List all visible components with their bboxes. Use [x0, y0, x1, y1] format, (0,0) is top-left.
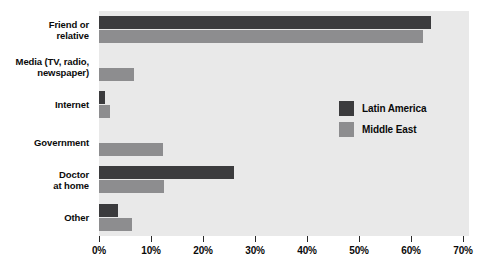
bar-latin-america [99, 91, 105, 104]
x-axis-tick-label: 0% [92, 245, 106, 256]
bar-group [99, 49, 469, 87]
bar-latin-america [99, 166, 234, 179]
bar-group [99, 11, 469, 49]
y-axis-label-line: Media (TV, radio, [0, 56, 89, 67]
x-axis-tick-label: 40% [297, 245, 316, 256]
legend-item: Latin America [339, 101, 459, 116]
x-axis-tick-label: 70% [453, 245, 472, 256]
y-axis-label: Other [0, 212, 89, 223]
bar-middle-east [99, 143, 163, 156]
bar-group [99, 161, 469, 199]
bar-group [99, 199, 469, 237]
x-axis-tick [151, 236, 152, 242]
y-axis-labels: Friend orrelativeMedia (TV, radio,newspa… [0, 11, 95, 236]
bar-latin-america [99, 204, 118, 217]
y-axis-label-line: Other [0, 212, 89, 223]
y-axis-label: Government [0, 137, 89, 148]
x-axis-tick-label: 50% [349, 245, 368, 256]
y-axis-label: Doctorat home [0, 169, 89, 191]
x-axis-tick [411, 236, 412, 242]
y-axis-label: Internet [0, 99, 89, 110]
y-axis-label-line: relative [0, 30, 89, 41]
legend-swatch-icon [339, 101, 354, 116]
x-axis-tick [463, 236, 464, 242]
y-axis-label-line: newspaper) [0, 67, 89, 78]
y-axis-label-line: Government [0, 137, 89, 148]
legend-swatch-icon [339, 122, 354, 137]
y-axis-label-line: Friend or [0, 19, 89, 30]
y-axis-label-line: at home [0, 180, 89, 191]
bar-middle-east [99, 68, 134, 81]
legend-item: Middle East [339, 122, 459, 137]
y-axis-label-line: Doctor [0, 169, 89, 180]
bar-middle-east [99, 180, 164, 193]
x-axis-tick-label: 20% [193, 245, 212, 256]
x-axis-tick [307, 236, 308, 242]
x-axis-tick [99, 236, 100, 242]
y-axis-label: Friend orrelative [0, 19, 89, 41]
bar-middle-east [99, 105, 110, 118]
bar-chart: Friend orrelativeMedia (TV, radio,newspa… [0, 0, 483, 270]
y-axis-label-line: Internet [0, 99, 89, 110]
x-axis-tick-label: 10% [141, 245, 160, 256]
x-axis: 0%10%20%30%40%50%60%70% [99, 236, 469, 270]
legend-label: Latin America [362, 103, 426, 114]
chart-legend: Latin AmericaMiddle East [339, 101, 459, 143]
bar-middle-east [99, 30, 423, 43]
x-axis-tick-label: 30% [245, 245, 264, 256]
bar-middle-east [99, 218, 132, 231]
x-axis-tick-label: 60% [401, 245, 420, 256]
legend-label: Middle East [362, 124, 416, 135]
x-axis-tick [359, 236, 360, 242]
x-axis-tick [203, 236, 204, 242]
bar-latin-america [99, 16, 431, 29]
y-axis-label: Media (TV, radio,newspaper) [0, 56, 89, 78]
x-axis-tick [255, 236, 256, 242]
